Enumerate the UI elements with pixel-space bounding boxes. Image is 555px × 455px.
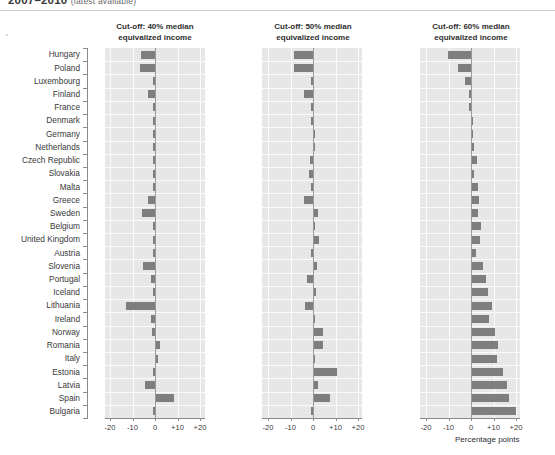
gridline-row — [262, 273, 362, 274]
bar — [471, 288, 488, 296]
gridline-row — [262, 286, 362, 287]
bar — [305, 302, 313, 310]
country-label-romania: Romania — [47, 340, 80, 350]
y-axis-line — [87, 48, 88, 419]
gridline-row — [262, 299, 362, 300]
gridline-row — [262, 154, 362, 155]
chart-root: 2007–2010 (latest available) Cut-off: 40… — [0, 0, 555, 455]
x-axis-tick — [313, 418, 314, 421]
country-label-portugal: Portugal — [49, 274, 80, 284]
gridline-row — [262, 88, 362, 89]
bar — [471, 355, 497, 363]
gridline-row — [262, 365, 362, 366]
plot-panel-3 — [420, 48, 520, 418]
bar — [145, 381, 155, 389]
gridline-row — [262, 326, 362, 327]
country-label-lithuania: Lithuania — [46, 300, 80, 310]
country-label-luxembourg: Luxembourg — [34, 76, 80, 86]
x-axis-line-2 — [262, 418, 362, 419]
gridline-row — [262, 312, 362, 313]
country-label-bulgaria: Bulgaria — [50, 406, 80, 416]
x-axis-tick — [133, 418, 134, 421]
bar — [471, 381, 507, 389]
gridline-row — [262, 233, 362, 234]
bar — [294, 51, 313, 59]
bar — [313, 341, 323, 349]
country-label-denmark: Denmark — [46, 115, 80, 125]
plot-panel-1 — [105, 48, 205, 418]
gridline-row — [262, 61, 362, 62]
country-label-greece: Greece — [53, 195, 80, 205]
bar — [471, 183, 478, 191]
gridline-row — [262, 167, 362, 168]
x-axis-tick — [336, 418, 337, 421]
gridline-row — [420, 193, 520, 194]
country-label-malta: Malta — [60, 182, 80, 192]
gridline-row — [420, 259, 520, 260]
bar — [313, 394, 330, 402]
gridline-row — [420, 141, 520, 142]
chart-title-text: 2007–2010 — [8, 0, 67, 6]
gridline-row — [420, 127, 520, 128]
gridline-row — [262, 339, 362, 340]
bar — [471, 368, 503, 376]
zero-line — [313, 48, 314, 418]
bar — [126, 302, 155, 310]
gridline-row — [420, 286, 520, 287]
chart-title: 2007–2010 (latest available) — [8, 0, 136, 6]
bar — [141, 51, 155, 59]
gridline-row — [262, 352, 362, 353]
x-axis-line-3 — [420, 418, 520, 419]
gridline-row — [420, 312, 520, 313]
gridline-row — [262, 193, 362, 194]
bar — [471, 222, 481, 230]
panel-title-3: Cut-off: 60% median equivalized income — [409, 22, 533, 43]
gridline-row — [420, 88, 520, 89]
gridline-row — [262, 114, 362, 115]
country-label-sweden: Sweden — [50, 208, 80, 218]
country-label-hungary: Hungary — [49, 49, 80, 59]
gridline-row — [420, 326, 520, 327]
bar — [471, 315, 489, 323]
bar — [148, 196, 155, 204]
gridline-row — [420, 114, 520, 115]
bar — [458, 64, 472, 72]
bar — [471, 236, 480, 244]
bar — [313, 368, 337, 376]
x-axis-tick — [155, 418, 156, 421]
x-axis-title: Percentage points — [455, 435, 520, 444]
bar — [471, 328, 495, 336]
x-axis-tick — [200, 418, 201, 421]
bar — [448, 51, 471, 59]
gridline-row — [420, 365, 520, 366]
bar — [471, 302, 492, 310]
country-label-slovenia: Slovenia — [48, 261, 80, 271]
gridline-row — [262, 392, 362, 393]
gridline-row — [420, 339, 520, 340]
country-label-estonia: Estonia — [52, 367, 80, 377]
country-label-united-kingdom: United Kingdom — [21, 234, 80, 244]
x-axis-tick — [268, 418, 269, 421]
bar — [140, 64, 155, 72]
bar — [471, 275, 486, 283]
gridline-row — [262, 378, 362, 379]
country-label-france: France — [54, 102, 80, 112]
x-axis-tick — [110, 418, 111, 421]
panel-title-2: Cut-off: 50% median equivalized income — [251, 22, 375, 43]
gridline-row — [420, 246, 520, 247]
x-axis-tick-label: +20 — [344, 423, 372, 432]
country-label-spain: Spain — [59, 393, 80, 403]
chart-subtitle-text: (latest available) — [71, 0, 137, 6]
bar — [471, 341, 498, 349]
gridline-row — [420, 392, 520, 393]
bar — [142, 209, 155, 217]
x-axis-tick — [426, 418, 427, 421]
country-label-iceland: Iceland — [53, 287, 80, 297]
gridline-row — [420, 101, 520, 102]
x-axis-tick — [291, 418, 292, 421]
country-label-slovakia: Slovakia — [49, 168, 80, 178]
gridline-row — [420, 405, 520, 406]
plot-panel-2 — [262, 48, 362, 418]
bar — [313, 328, 323, 336]
bar — [143, 262, 155, 270]
